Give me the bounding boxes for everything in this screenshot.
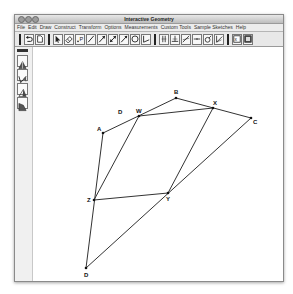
sketch-canvas[interactable]: ABCDWXYZD <box>33 47 283 281</box>
sidebar-tool-triangle[interactable] <box>17 55 28 67</box>
measure-icon: x <box>233 35 241 43</box>
ray-tool[interactable] <box>97 34 107 45</box>
ray-icon <box>98 35 106 43</box>
angle-icon <box>142 35 150 43</box>
calculator-button[interactable] <box>243 34 253 45</box>
app-window: Interactive Geometry File Edit Draw Cons… <box>14 14 284 282</box>
menu-draw[interactable]: Draw <box>40 24 52 31</box>
eraser-icon <box>65 35 73 43</box>
point-tool[interactable]: P <box>75 34 85 45</box>
point-x[interactable] <box>212 107 215 110</box>
menu-sample-sketches[interactable]: Sample Sketches <box>194 24 233 31</box>
parallel-line-icon <box>160 35 168 43</box>
menu-edit[interactable]: Edit <box>28 24 37 31</box>
point-y[interactable] <box>167 192 170 195</box>
segment-xy[interactable] <box>168 108 213 193</box>
geometry-sketch[interactable]: ABCDWXYZD <box>33 47 283 281</box>
extra-label-0: D <box>118 109 123 115</box>
polygon-tool-icon <box>18 102 27 112</box>
window-title: Interactive Geometry <box>15 15 283 23</box>
point-label-x: X <box>213 100 217 106</box>
angle-bisector-tool[interactable] <box>181 34 191 45</box>
point-label-d: D <box>84 272 89 278</box>
point-d[interactable] <box>85 267 88 270</box>
point-z[interactable] <box>93 199 96 202</box>
angle-tool[interactable] <box>141 34 151 45</box>
point-label-w: W <box>136 108 142 114</box>
point-c[interactable] <box>250 117 253 120</box>
segment-wx[interactable] <box>139 108 213 116</box>
line-icon <box>109 35 117 43</box>
toolbar: P x <box>15 32 283 47</box>
midpoint-icon <box>193 35 201 43</box>
circle-icon <box>131 35 139 43</box>
midpoint-tool[interactable] <box>192 34 202 45</box>
svg-text:P: P <box>80 36 84 42</box>
angle-bisector-icon <box>182 35 190 43</box>
calculator-icon <box>244 35 252 43</box>
point-label-c: C <box>253 119 258 125</box>
toolbar-separator <box>154 34 156 45</box>
point-b[interactable] <box>175 97 178 100</box>
toolbar-grip <box>19 34 21 45</box>
segment-tool[interactable] <box>86 34 96 45</box>
point-label-a: A <box>97 126 102 132</box>
point-w[interactable] <box>138 115 141 118</box>
undo-icon <box>25 35 33 43</box>
menu-measurements[interactable]: Measurements <box>125 24 158 31</box>
perpendicular-line-icon <box>171 35 179 43</box>
menu-transform[interactable]: Transform <box>79 24 102 31</box>
perpendicular-line-tool[interactable] <box>170 34 180 45</box>
segment-icon <box>87 35 95 43</box>
sidebar-grip[interactable] <box>17 49 28 52</box>
segment-yz[interactable] <box>94 193 168 200</box>
eraser-tool[interactable] <box>64 34 74 45</box>
circle-tool[interactable] <box>130 34 140 45</box>
document-button[interactable] <box>35 34 45 45</box>
menu-bar: File Edit Draw Construct Transform Optio… <box>15 24 283 32</box>
undo-button[interactable] <box>24 34 34 45</box>
menu-options[interactable]: Options <box>104 24 121 31</box>
point-label-z: Z <box>87 197 91 203</box>
sidebar-tool-triangle-bisect[interactable] <box>17 83 28 95</box>
line-tool[interactable] <box>108 34 118 45</box>
pointer-tool[interactable] <box>53 34 63 45</box>
vector-tool[interactable] <box>119 34 129 45</box>
menu-help[interactable]: Help <box>236 24 246 31</box>
point-a[interactable] <box>102 132 105 135</box>
pointer-arrow-icon <box>54 35 62 43</box>
sidebar-tool-angle[interactable] <box>17 69 28 81</box>
title-bar[interactable]: Interactive Geometry <box>15 15 283 24</box>
toolbar-separator <box>48 34 50 45</box>
parallel-line-tool[interactable] <box>159 34 169 45</box>
menu-construct[interactable]: Construct <box>54 24 75 31</box>
sidebar-tool-polygon[interactable] <box>17 97 28 109</box>
measure-button[interactable]: x <box>232 34 242 45</box>
menu-file[interactable]: File <box>17 24 25 31</box>
custom-tools-sidebar <box>15 47 33 281</box>
point-icon: P <box>76 35 84 43</box>
compass-icon <box>204 35 212 43</box>
point-label-b: B <box>174 89 179 95</box>
document-icon <box>36 35 44 43</box>
compass-tool[interactable] <box>203 34 213 45</box>
reflect-tool[interactable] <box>214 34 224 45</box>
point-label-y: Y <box>166 196 170 202</box>
menu-custom-tools[interactable]: Custom Tools <box>161 24 191 31</box>
reflect-icon <box>215 35 223 43</box>
toolbar-separator <box>227 34 229 45</box>
vector-icon <box>120 35 128 43</box>
